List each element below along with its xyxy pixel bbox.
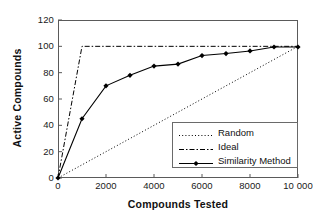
data-point-marker [199, 53, 204, 58]
x-tick-labels: 0200040006000800010 000 [0, 181, 320, 195]
x-tick-label: 10 000 [268, 181, 320, 191]
legend-line-sample-icon [178, 141, 214, 152]
legend-item: Similarity Method [178, 154, 297, 167]
legend-label: Ideal [218, 141, 239, 152]
data-point-marker [175, 62, 180, 67]
y-axis-title: Active Compounds [11, 19, 23, 177]
legend-label: Random [218, 127, 254, 138]
data-point-marker [223, 51, 228, 56]
legend-item: Random [178, 126, 297, 139]
data-point-marker [295, 44, 300, 49]
x-axis-title: Compounds Tested [58, 198, 298, 210]
data-point-marker [247, 48, 252, 53]
chart-legend: RandomIdealSimilarity Method [172, 122, 298, 168]
legend-label: Similarity Method [218, 155, 291, 166]
data-point-marker [271, 44, 276, 49]
data-point-marker [151, 63, 156, 68]
legend-line-sample-icon [178, 127, 214, 138]
data-point-marker [127, 73, 132, 78]
legend-line-sample-icon [178, 155, 214, 166]
legend-item: Ideal [178, 140, 297, 153]
chart-figure: 020406080100120 0200040006000800010 000 … [0, 0, 320, 223]
